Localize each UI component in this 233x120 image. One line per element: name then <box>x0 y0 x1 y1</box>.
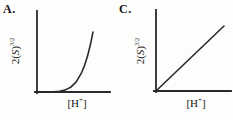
y-axis-label-a-exponent: 3/2 <box>8 38 15 46</box>
y-axis-label-a-variable: S <box>9 50 21 56</box>
x-axis-label-c: [H+] <box>171 96 221 110</box>
y-axis-label-c: 2(S)3/2 <box>133 23 147 79</box>
y-axis-label-a: 2(S)3/2 <box>8 23 22 79</box>
y-axis-label-a-post: ) <box>9 46 21 50</box>
curve-c-linear <box>156 26 224 91</box>
y-axis-label-a-pre: 2( <box>9 55 21 64</box>
answer-options-figure: A. 2(S)3/2 [H+] C. 2(S)3/2 [H+] <box>0 0 233 120</box>
option-label-a: A. <box>3 2 16 17</box>
y-axis-label-c-pre: 2( <box>134 55 146 64</box>
y-axis-label-c-variable: S <box>134 50 146 56</box>
y-axis-label-c-exponent: 3/2 <box>133 38 140 46</box>
x-axis-label-a: [H+] <box>52 96 102 110</box>
x-axis-label-c-open: [H <box>186 97 198 109</box>
option-label-c: C. <box>119 2 132 17</box>
curve-a-exponential <box>37 32 93 92</box>
x-axis-label-c-close: ] <box>202 97 206 109</box>
plot-c <box>149 8 233 96</box>
x-axis-label-a-open: [H <box>67 97 79 109</box>
plot-a <box>30 8 112 96</box>
x-axis-label-a-close: ] <box>83 97 87 109</box>
y-axis-label-c-post: ) <box>134 46 146 50</box>
